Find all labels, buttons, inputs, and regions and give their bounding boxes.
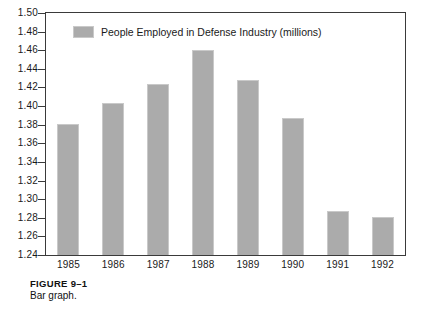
bar-1990 <box>282 118 304 255</box>
y-axis-tick-mark <box>38 199 45 200</box>
bar-1989 <box>237 80 259 255</box>
y-axis-tick-mark <box>38 255 45 256</box>
y-axis-tick-label: 1.30 <box>0 194 38 204</box>
y-axis-tick-label: 1.46 <box>0 45 38 55</box>
x-axis-tick-label: 1991 <box>315 259 360 271</box>
figure-caption-title: FIGURE 9–1 <box>30 278 330 290</box>
figure-caption: FIGURE 9–1 Bar graph. <box>30 278 330 302</box>
y-axis-tick-mark <box>38 236 45 237</box>
bar-1986 <box>102 103 124 255</box>
y-axis-tick-label: 1.26 <box>0 231 38 241</box>
y-axis-tick-mark <box>38 125 45 126</box>
x-axis-tick-label: 1986 <box>91 259 136 271</box>
y-axis-tick-mark <box>38 13 45 14</box>
y-axis-tick-mark <box>38 50 45 51</box>
x-axis-tick-label: 1989 <box>226 259 271 271</box>
y-axis-tick-label: 1.28 <box>0 213 38 223</box>
y-axis-tick-mark <box>38 87 45 88</box>
y-axis-tick-mark <box>38 162 45 163</box>
y-axis-tick-mark <box>38 106 45 107</box>
y-axis-tick-label: 1.38 <box>0 120 38 130</box>
y-axis-tick-label: 1.32 <box>0 176 38 186</box>
y-axis-tick-mark <box>38 143 45 144</box>
bar-1987 <box>147 84 169 255</box>
y-axis-tick-mark <box>38 69 45 70</box>
y-axis-tick-label: 1.40 <box>0 101 38 111</box>
legend-swatch-icon <box>73 26 94 38</box>
y-axis-tick-label: 1.44 <box>0 64 38 74</box>
bar-1985 <box>57 124 79 255</box>
y-axis-label-group: 1.501.481.461.441.421.401.381.361.341.32… <box>0 12 38 256</box>
y-axis-tick-mark <box>38 218 45 219</box>
x-axis-tick-label: 1992 <box>360 259 405 271</box>
figure-caption-text: Bar graph. <box>30 290 330 302</box>
x-axis-label-group: 19851986198719881989199019911992 <box>46 259 405 273</box>
x-axis-tick-label: 1985 <box>46 259 91 271</box>
figure-bar-graph: 1.501.481.461.441.421.401.381.361.341.32… <box>0 0 424 316</box>
bar-1991 <box>327 211 349 255</box>
y-axis-tick-label: 1.36 <box>0 138 38 148</box>
y-axis-tick-label: 1.24 <box>0 250 38 260</box>
y-axis-tick-label: 1.50 <box>0 8 38 18</box>
bar-1992 <box>372 217 394 255</box>
y-axis-tick-group <box>38 12 45 256</box>
y-axis-tick-mark <box>38 32 45 33</box>
x-axis-tick-label: 1987 <box>136 259 181 271</box>
bar-series-group <box>46 13 405 255</box>
x-axis-tick-label: 1990 <box>270 259 315 271</box>
y-axis-tick-label: 1.34 <box>0 157 38 167</box>
chart-legend: People Employed in Defense Industry (mil… <box>73 26 322 38</box>
x-axis-tick-label: 1988 <box>181 259 226 271</box>
y-axis-tick-label: 1.48 <box>0 27 38 37</box>
y-axis-tick-mark <box>38 181 45 182</box>
legend-label: People Employed in Defense Industry (mil… <box>101 26 322 38</box>
bar-1988 <box>192 50 214 255</box>
y-axis-tick-label: 1.42 <box>0 82 38 92</box>
